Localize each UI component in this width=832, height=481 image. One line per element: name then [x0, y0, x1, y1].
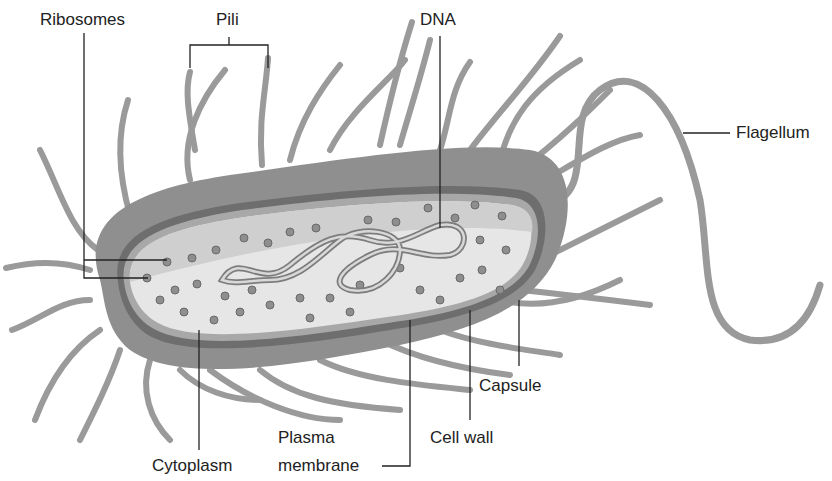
label-capsule: Capsule [479, 376, 541, 396]
label-ribosomes: Ribosomes [40, 10, 125, 30]
label-plasma-membrane-1: Plasma [278, 428, 335, 448]
bacterial-cell-diagram [0, 0, 832, 481]
label-cytoplasm: Cytoplasm [152, 456, 232, 476]
label-cell-wall: Cell wall [430, 428, 493, 448]
label-dna: DNA [420, 10, 456, 30]
label-plasma-membrane-2: membrane [278, 456, 359, 476]
label-flagellum: Flagellum [736, 123, 810, 143]
label-pili: Pili [216, 10, 239, 30]
